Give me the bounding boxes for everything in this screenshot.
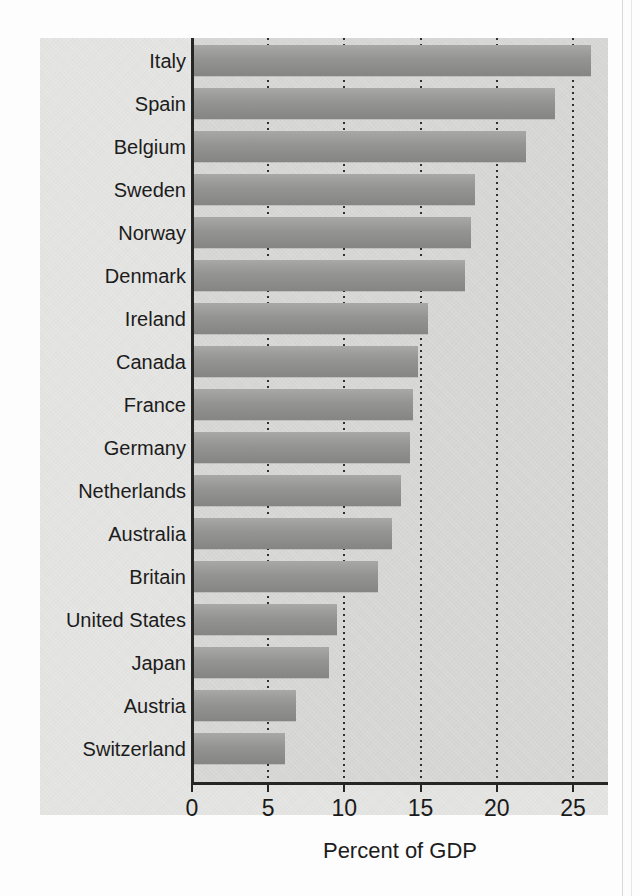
category-label: Ireland — [36, 309, 186, 329]
x-tick-label-25: 25 — [543, 795, 603, 822]
bar — [192, 518, 392, 549]
x-tick-label-15: 15 — [391, 795, 451, 822]
category-label: United States — [36, 610, 186, 630]
x-tick-25 — [572, 782, 574, 792]
bar — [192, 131, 526, 162]
bar — [192, 733, 285, 764]
category-label: Switzerland — [36, 739, 186, 759]
category-label: Norway — [36, 223, 186, 243]
y-axis-line — [191, 38, 194, 785]
bar — [192, 88, 555, 119]
category-label: Germany — [36, 438, 186, 458]
x-tick-0 — [191, 782, 193, 792]
x-tick-label-5: 5 — [238, 795, 298, 822]
bars-group — [192, 38, 608, 782]
category-label: Britain — [36, 567, 186, 587]
bar — [192, 174, 475, 205]
x-axis-title: Percent of GDP — [192, 838, 608, 864]
category-label: Canada — [36, 352, 186, 372]
bar — [192, 647, 329, 678]
bar — [192, 561, 378, 592]
category-label: Italy — [36, 51, 186, 71]
bar — [192, 389, 413, 420]
bar — [192, 260, 465, 291]
category-label: Austria — [36, 696, 186, 716]
bar — [192, 45, 591, 76]
bar — [192, 475, 401, 506]
bar — [192, 432, 410, 463]
category-label: Sweden — [36, 180, 186, 200]
x-tick-5 — [267, 782, 269, 792]
category-label: Denmark — [36, 266, 186, 286]
bar — [192, 303, 428, 334]
bar — [192, 604, 337, 635]
page-edge-rule — [622, 0, 623, 896]
x-tick-label-20: 20 — [467, 795, 527, 822]
bar — [192, 346, 418, 377]
scanned-page: 0510152025 ItalySpainBelgiumSwedenNorway… — [0, 0, 640, 896]
category-label: Netherlands — [36, 481, 186, 501]
x-tick-10 — [343, 782, 345, 792]
x-tick-label-0: 0 — [162, 795, 222, 822]
x-axis-line — [191, 782, 608, 785]
category-label: France — [36, 395, 186, 415]
x-tick-label-10: 10 — [314, 795, 374, 822]
category-label: Belgium — [36, 137, 186, 157]
category-label: Spain — [36, 94, 186, 114]
category-label: Australia — [36, 524, 186, 544]
category-labels-group: ItalySpainBelgiumSwedenNorwayDenmarkIrel… — [36, 38, 186, 782]
bar — [192, 217, 471, 248]
x-tick-20 — [496, 782, 498, 792]
x-tick-15 — [420, 782, 422, 792]
bar — [192, 690, 296, 721]
category-label: Japan — [36, 653, 186, 673]
page-edge-rule-secondary — [631, 0, 632, 896]
